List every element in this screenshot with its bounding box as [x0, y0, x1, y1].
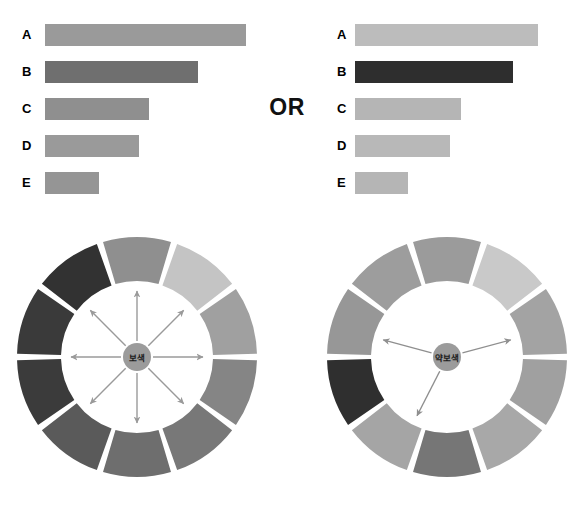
bar-fill-e — [45, 172, 99, 194]
bar-row: A — [0, 24, 260, 46]
wheel-segment — [413, 430, 481, 477]
wheel-hub-label: 약보색 — [435, 353, 459, 363]
wheel-direction-arrow — [462, 340, 510, 353]
bar-label-b: B — [22, 61, 38, 83]
wheel-hub-label: 보색 — [129, 353, 145, 363]
bar-track-e — [45, 172, 99, 194]
bar-track-d — [355, 135, 450, 157]
bar-track-e — [355, 172, 408, 194]
bar-fill-a — [355, 24, 538, 46]
bar-fill-d — [355, 135, 450, 157]
bar-label-d: D — [22, 135, 38, 157]
bar-label-a: A — [22, 24, 38, 46]
wheel-segment — [413, 237, 481, 284]
bar-fill-c — [355, 98, 461, 120]
bar-track-c — [45, 98, 149, 120]
bar-row: D — [325, 135, 575, 157]
bar-label-b: B — [337, 61, 353, 83]
wheel-segment — [103, 430, 171, 477]
bar-track-b — [355, 61, 513, 83]
bar-row: C — [0, 98, 260, 120]
bar-label-a: A — [337, 24, 353, 46]
bar-label-d: D — [337, 135, 353, 157]
color-wheel-weak-complementary-svg: 약보색 — [322, 232, 572, 482]
color-wheel-complementary: 보색 — [12, 232, 262, 482]
bar-label-e: E — [337, 172, 353, 194]
wheel-direction-arrow — [383, 340, 431, 353]
wheel-direction-arrow — [148, 368, 183, 403]
bar-row: B — [0, 61, 260, 83]
or-divider-label: OR — [258, 94, 316, 121]
bar-row: D — [0, 135, 260, 157]
bar-track-d — [45, 135, 139, 157]
bar-fill-a — [45, 24, 246, 46]
bar-row: A — [325, 24, 575, 46]
page-canvas: A B C D E — [0, 0, 585, 515]
bar-row: E — [0, 172, 260, 194]
wheel-segment — [103, 237, 171, 284]
bar-label-e: E — [22, 172, 38, 194]
bar-row: E — [325, 172, 575, 194]
bar-fill-e — [355, 172, 408, 194]
bar-track-c — [355, 98, 461, 120]
bar-label-c: C — [337, 98, 353, 120]
color-wheel-weak-complementary: 약보색 — [322, 232, 572, 482]
bar-label-c: C — [22, 98, 38, 120]
wheel-direction-arrow — [148, 310, 183, 345]
wheel-direction-arrow — [417, 371, 440, 416]
bar-track-a — [45, 24, 246, 46]
bar-fill-c — [45, 98, 149, 120]
bar-fill-b — [355, 61, 513, 83]
bar-track-b — [45, 61, 198, 83]
bar-row: C — [325, 98, 575, 120]
bar-fill-b — [45, 61, 198, 83]
bar-track-a — [355, 24, 538, 46]
bar-row: B — [325, 61, 575, 83]
bar-fill-d — [45, 135, 139, 157]
color-wheel-complementary-svg: 보색 — [12, 232, 262, 482]
wheel-direction-arrow — [90, 310, 125, 345]
wheel-direction-arrow — [90, 368, 125, 403]
